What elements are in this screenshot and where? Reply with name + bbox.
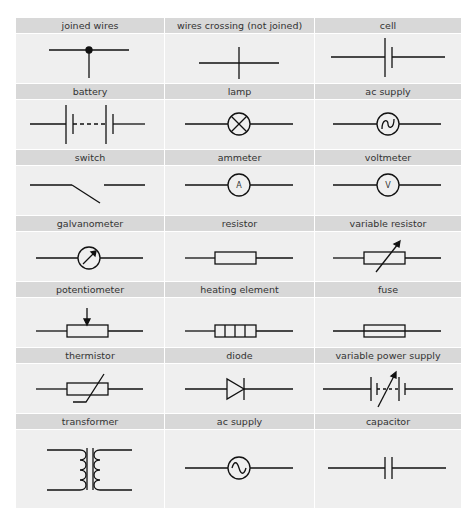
symbol-label-ac-supply-2: ac supply xyxy=(165,414,314,429)
symbol-label-voltmeter: voltmeter xyxy=(315,150,461,165)
capacitor-cell xyxy=(315,430,461,508)
thermistor-cell xyxy=(16,364,164,413)
switch-icon xyxy=(16,166,164,215)
potentiometer-icon xyxy=(16,298,164,347)
circuit-symbols-table: joined wires wires crossing (not joined)… xyxy=(16,18,461,508)
symbol-label-variable-power-supply: variable power supply xyxy=(315,348,461,363)
wires-crossing-cell xyxy=(165,34,314,83)
wires-crossing-icon xyxy=(165,34,314,83)
symbol-label-cell: cell xyxy=(315,18,461,33)
variable-resistor-icon xyxy=(315,232,461,281)
voltmeter-glyph: V xyxy=(385,181,391,190)
heating-element-cell xyxy=(165,298,314,347)
diode-cell xyxy=(165,364,314,413)
ac-supply-icon xyxy=(165,430,314,508)
symbol-label-resistor: resistor xyxy=(165,216,314,231)
symbol-label-transformer: transformer xyxy=(16,414,164,429)
symbol-label-thermistor: thermistor xyxy=(16,348,164,363)
symbol-label-potentiometer: potentiometer xyxy=(16,282,164,297)
switch-cell xyxy=(16,166,164,215)
lamp-cell xyxy=(165,100,314,149)
symbol-label-fuse: fuse xyxy=(315,282,461,297)
symbol-label-heating-element: heating element xyxy=(165,282,314,297)
cell-icon xyxy=(315,34,461,83)
symbol-label-joined-wires: joined wires xyxy=(16,18,164,33)
joined-wires-cell xyxy=(16,34,164,83)
capacitor-icon xyxy=(315,430,461,508)
symbol-label-galvanometer: galvanometer xyxy=(16,216,164,231)
ac-supply-icon xyxy=(315,100,461,149)
symbol-label-ac-supply: ac supply xyxy=(315,84,461,99)
symbol-label-variable-resistor: variable resistor xyxy=(315,216,461,231)
symbol-label-switch: switch xyxy=(16,150,164,165)
resistor-icon xyxy=(165,232,314,281)
voltmeter-cell: V xyxy=(315,166,461,215)
potentiometer-cell xyxy=(16,298,164,347)
ammeter-cell: A xyxy=(165,166,314,215)
ammeter-icon: A xyxy=(165,166,314,215)
symbol-label-battery: battery xyxy=(16,84,164,99)
diode-icon xyxy=(165,364,314,413)
heating-element-icon xyxy=(165,298,314,347)
symbol-label-lamp: lamp xyxy=(165,84,314,99)
thermistor-icon xyxy=(16,364,164,413)
ammeter-glyph: A xyxy=(236,181,242,190)
variable-power-supply-icon xyxy=(315,364,461,413)
fuse-cell xyxy=(315,298,461,347)
fuse-icon xyxy=(315,298,461,347)
ac-supply-cell xyxy=(315,100,461,149)
ac-supply-2-cell xyxy=(165,430,314,508)
voltmeter-icon: V xyxy=(315,166,461,215)
symbol-label-ammeter: ammeter xyxy=(165,150,314,165)
transformer-icon xyxy=(16,430,164,508)
cell-cell xyxy=(315,34,461,83)
symbol-label-wires-crossing: wires crossing (not joined) xyxy=(165,18,314,33)
battery-icon xyxy=(16,100,164,149)
joined-wires-icon xyxy=(16,34,164,83)
variable-power-supply-cell xyxy=(315,364,461,413)
galvanometer-icon xyxy=(16,232,164,281)
lamp-icon xyxy=(165,100,314,149)
variable-resistor-cell xyxy=(315,232,461,281)
symbol-label-diode: diode xyxy=(165,348,314,363)
galvanometer-cell xyxy=(16,232,164,281)
battery-cell xyxy=(16,100,164,149)
symbol-label-capacitor: capacitor xyxy=(315,414,461,429)
resistor-cell xyxy=(165,232,314,281)
transformer-cell xyxy=(16,430,164,508)
